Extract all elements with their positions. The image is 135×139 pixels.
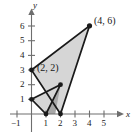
x-tick-label-3: 3: [73, 119, 78, 128]
point-label-4-6: (4, 6): [94, 16, 116, 26]
x-tick-label-2: 2: [58, 119, 63, 128]
x-tick-label-4: 4: [87, 119, 92, 128]
y-axis-label: y: [33, 1, 37, 10]
x-axis-arrow: [117, 111, 124, 117]
y-tick-label-2: 2: [20, 80, 25, 89]
vertex-point-1-0: [44, 112, 49, 117]
graph-figure: −1 1 2 3 4 5 1 2 3 4 5 6 x y (4, 6) (2, …: [0, 0, 135, 139]
x-tick-label-5: 5: [102, 119, 107, 128]
y-tick-label-1: 1: [20, 95, 25, 104]
y-tick-label-4: 4: [20, 51, 25, 60]
vertex-point-4-6: [87, 23, 92, 28]
x-axis-label: x: [126, 110, 130, 119]
vertex-point-2-2: [58, 82, 63, 87]
vertex-point-0-3: [29, 68, 34, 73]
y-tick-label-5: 5: [20, 36, 25, 45]
y-tick-label-6: 6: [20, 22, 25, 31]
x-tick-label-1: 1: [44, 119, 49, 128]
x-tick-label--1: −1: [11, 119, 21, 128]
y-tick-label-3: 3: [20, 66, 25, 75]
vertex-point-0-1: [29, 97, 34, 102]
point-label-2-2: (2, 2): [37, 63, 59, 73]
vertex-point-2-0: [58, 112, 63, 117]
